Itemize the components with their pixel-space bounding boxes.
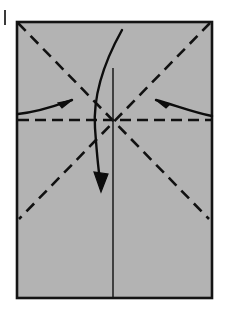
paper-sheet (17, 22, 212, 298)
left-margin-tick (4, 10, 6, 25)
origami-diagram-svg: Origami step: rectangle with pre-creased… (0, 0, 225, 327)
origami-diagram-canvas: Origami step: rectangle with pre-creased… (0, 0, 225, 327)
